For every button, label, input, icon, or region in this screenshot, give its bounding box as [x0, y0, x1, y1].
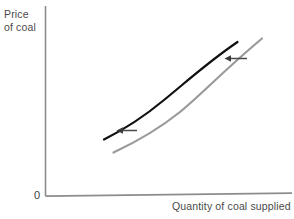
y-axis-label: Price of coal	[4, 8, 36, 33]
y-axis-label-line2: of coal	[4, 21, 36, 34]
x-axis-label: Quantity of coal supplied	[172, 200, 291, 213]
supply-curve-shifted	[104, 42, 238, 140]
y-axis-label-line1: Price	[4, 8, 29, 20]
shift-arrow-lower-icon	[117, 127, 138, 133]
origin-label: 0	[34, 189, 40, 201]
supply-curve-figure: Price of coal Quantity of coal supplied …	[0, 0, 294, 219]
chart-canvas	[0, 0, 294, 219]
x-axis	[46, 193, 293, 196]
supply-curve-original	[114, 39, 263, 153]
